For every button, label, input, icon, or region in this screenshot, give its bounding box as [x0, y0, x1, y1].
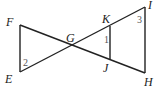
segment-ei — [20, 7, 145, 72]
angle-3-label: 3 — [137, 14, 142, 25]
segment-fh — [20, 25, 145, 73]
label-i: I — [147, 0, 153, 12]
geometry-diagram: F E G K J I H 1 2 3 — [0, 0, 164, 91]
label-h: H — [143, 75, 154, 89]
angle-2-label: 2 — [23, 57, 28, 68]
angle-1-label: 1 — [104, 34, 109, 45]
label-k: K — [101, 12, 111, 26]
label-g: G — [66, 31, 75, 45]
label-j: J — [103, 61, 109, 75]
label-f: F — [5, 15, 14, 29]
label-e: E — [4, 72, 13, 86]
